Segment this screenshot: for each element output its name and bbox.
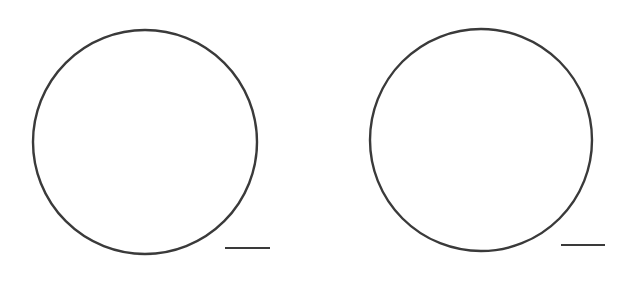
diagram-canvas [0, 0, 627, 285]
right-figure [370, 29, 605, 251]
left-circle [33, 30, 257, 254]
right-circle [370, 29, 592, 251]
left-figure [33, 30, 270, 254]
